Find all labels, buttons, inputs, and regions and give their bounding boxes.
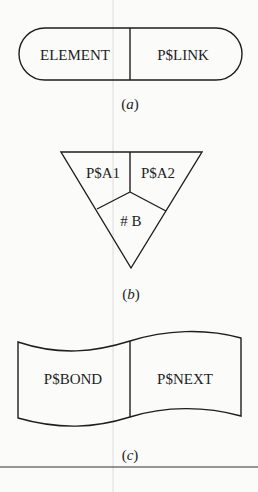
figure-canvas: ELEMENT P$LINK (a) P$A1 P$A2 # B (b) P$B… <box>0 0 258 492</box>
triangle-left-divider <box>97 192 130 209</box>
caption-a: (a) <box>121 96 139 113</box>
field-pa2: P$A2 <box>141 165 175 181</box>
panel-c: P$BOND P$NEXT (c) <box>18 332 241 464</box>
triangle-shape <box>61 152 202 268</box>
field-plink: P$LINK <box>157 47 209 63</box>
triangle-right-divider <box>130 192 166 211</box>
field-pbond: P$BOND <box>44 371 103 387</box>
field-hash-b: # B <box>120 213 141 229</box>
caption-b: (b) <box>122 286 140 303</box>
field-pa1: P$A1 <box>86 165 120 181</box>
panel-b: P$A1 P$A2 # B (b) <box>61 152 202 303</box>
panel-a: ELEMENT P$LINK (a) <box>19 28 242 113</box>
field-pnext: P$NEXT <box>157 371 213 387</box>
caption-c: (c) <box>122 447 139 464</box>
field-element: ELEMENT <box>40 47 110 63</box>
